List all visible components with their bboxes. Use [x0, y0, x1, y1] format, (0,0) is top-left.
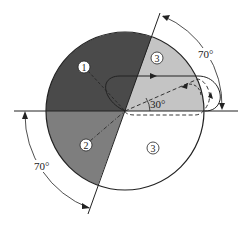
- arrowhead-upper-end-icon: [219, 103, 225, 110]
- angle-70-lower-label: 70°: [34, 160, 49, 172]
- rotation-zone-diagram: 30° 70° 70° 1 2 3 3: [0, 0, 248, 226]
- region-3-lower-label: 3: [151, 143, 156, 154]
- angle-70-upper-label: 70°: [198, 48, 213, 60]
- region-1-label: 1: [82, 62, 87, 73]
- region-2-label: 2: [84, 140, 89, 151]
- angle-30-label: 30°: [150, 98, 165, 110]
- region-2-badge: 2: [80, 139, 92, 151]
- region-3-lower-badge: 3: [147, 142, 159, 154]
- arrowhead-lower-start-icon: [22, 111, 28, 119]
- arrowhead-lower-end-icon: [82, 203, 90, 209]
- region-1-badge: 1: [78, 61, 90, 73]
- right-arrow-icon: [208, 92, 213, 99]
- region-3-upper-label: 3: [155, 53, 160, 64]
- region-3-upper-badge: 3: [151, 52, 163, 64]
- arrowhead-upper-start-icon: [162, 15, 170, 21]
